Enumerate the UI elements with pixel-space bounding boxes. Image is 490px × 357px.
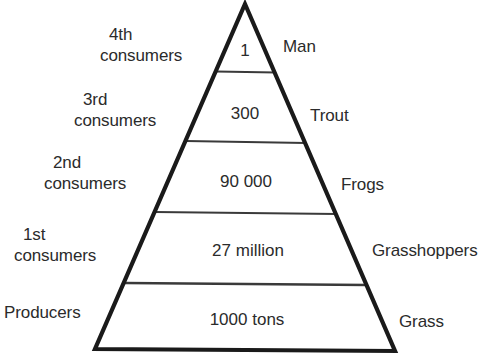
- organism-label-man: Man: [283, 36, 316, 57]
- level-value-1st-consumers: 27 million: [212, 241, 284, 261]
- level-value-4th-consumers: 1: [240, 41, 249, 61]
- level-value-producers: 1000 tons: [210, 310, 285, 330]
- level-value-3rd-consumers: 300: [231, 104, 259, 124]
- organism-label-grass: Grass: [399, 311, 444, 332]
- trophic-ordinal-4th: 4th: [100, 24, 182, 45]
- ecological-pyramid-diagram: 4th consumers 3rd consumers 2nd consumer…: [0, 0, 490, 357]
- organism-label-trout: Trout: [310, 105, 349, 126]
- trophic-label-1st-consumers: 1st consumers: [14, 224, 96, 266]
- trophic-ordinal-1st: 1st: [14, 224, 96, 245]
- trophic-word-4th: consumers: [100, 45, 182, 66]
- trophic-word-3rd: consumers: [74, 110, 156, 131]
- trophic-label-3rd-consumers: 3rd consumers: [74, 89, 156, 131]
- level-value-2nd-consumers: 90 000: [220, 172, 272, 192]
- divider-line-2: [186, 141, 306, 143]
- trophic-label-producers: Producers: [4, 302, 81, 323]
- trophic-word-producers: Producers: [4, 302, 81, 323]
- divider-line-3: [155, 212, 337, 214]
- trophic-ordinal-3rd: 3rd: [74, 89, 156, 110]
- trophic-word-1st: consumers: [14, 245, 96, 266]
- trophic-word-2nd: consumers: [44, 173, 126, 194]
- organism-label-grasshoppers: Grasshoppers: [372, 240, 478, 261]
- divider-line-4: [125, 283, 367, 285]
- trophic-label-2nd-consumers: 2nd consumers: [44, 152, 126, 194]
- trophic-label-4th-consumers: 4th consumers: [100, 24, 182, 66]
- organism-label-frogs: Frogs: [341, 174, 384, 195]
- trophic-ordinal-2nd: 2nd: [44, 152, 126, 173]
- divider-line-1: [216, 72, 276, 73]
